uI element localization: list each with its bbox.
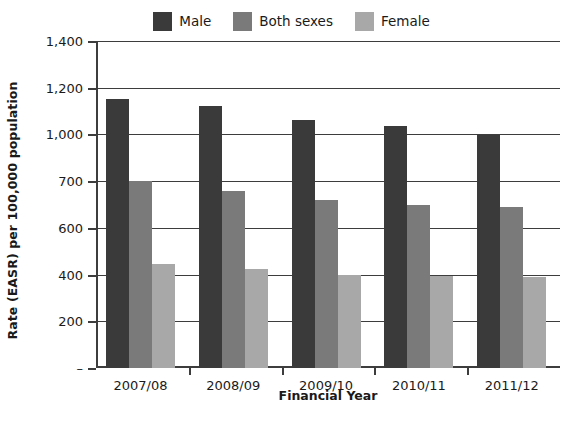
bar[interactable] [384,126,407,368]
bar[interactable] [500,207,523,368]
y-axis-title-text: Rate (EASR) per 100,000 population [6,82,21,340]
y-axis-tick [88,88,96,90]
legend-item-both-sexes[interactable]: Both sexes [233,12,333,31]
bar[interactable] [430,276,453,368]
legend-label-female: Female [381,15,430,29]
y-axis-tick [88,368,96,370]
y-axis-tick [88,228,96,230]
bar[interactable] [523,277,546,368]
y-axis-tick [88,134,96,136]
y-axis-tick-label: 1,200 [46,80,83,95]
bar[interactable] [292,120,315,368]
x-axis-tick [282,368,284,375]
y-axis-tick [88,41,96,43]
x-axis-tick [374,368,376,375]
legend-item-male[interactable]: Male [153,12,211,31]
y-axis-tick [88,275,96,277]
legend-item-female[interactable]: Female [355,12,430,31]
y-axis-title: Rate (EASR) per 100,000 population [0,0,26,421]
bar[interactable] [407,205,430,369]
bar[interactable] [222,191,245,369]
legend-swatch-male-icon [153,12,172,31]
y-axis-tick [88,321,96,323]
bar[interactable] [315,200,338,368]
y-axis-tick-label: 1,000 [46,127,83,142]
y-axis-tick-label: 200 [58,314,83,329]
bar-chart: Male Both sexes Female Rate (EASR) per 1… [0,0,583,421]
y-axis-tick-label: – [77,361,84,376]
legend-swatch-both-sexes-icon [233,12,252,31]
bar[interactable] [338,275,361,368]
legend-label-male: Male [179,15,211,29]
bar[interactable] [106,99,129,368]
y-axis-tick-label: 700 [58,174,83,189]
bars-layer [96,41,560,368]
bar[interactable] [152,264,175,368]
bar[interactable] [129,181,152,368]
plot-area: 1,4001,2001,000700600400200– 2007/082008… [96,41,560,368]
legend-swatch-female-icon [355,12,374,31]
legend-label-both-sexes: Both sexes [259,15,333,29]
y-axis-tick-label: 600 [58,220,83,235]
bar[interactable] [245,269,268,368]
x-axis-tick [467,368,469,375]
bar[interactable] [199,106,222,368]
chart-legend: Male Both sexes Female [0,12,583,31]
y-axis-tick [88,181,96,183]
y-axis-tick-label: 400 [58,267,83,282]
y-axis-tick-label: 1,400 [46,34,83,49]
x-axis-title: Financial Year [96,388,560,403]
bar[interactable] [477,135,500,368]
x-axis-tick [189,368,191,375]
